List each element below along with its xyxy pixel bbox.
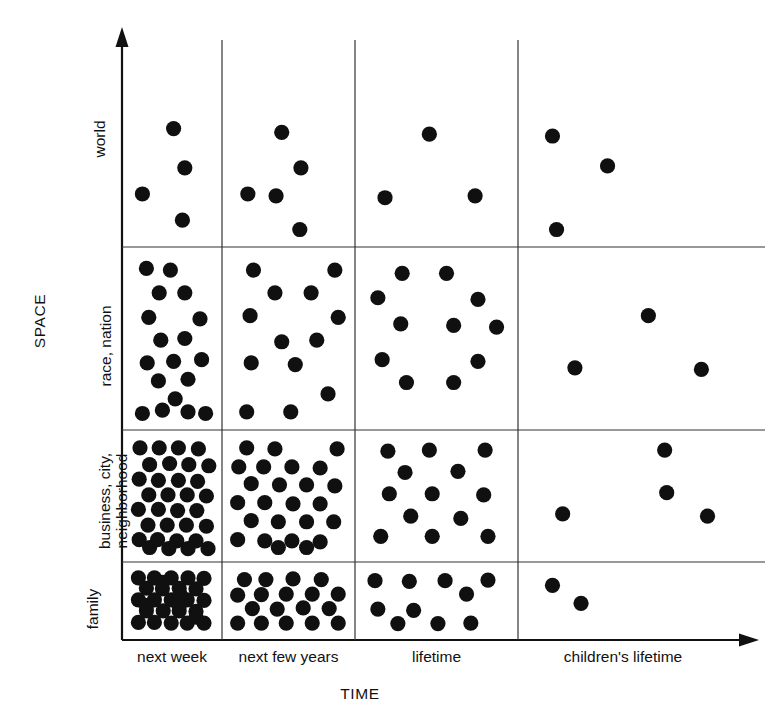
data-point-dot (200, 541, 215, 556)
data-point-dot (142, 457, 157, 472)
data-point-dot (254, 615, 269, 630)
data-point-dot (470, 354, 485, 369)
data-point-dot (190, 474, 205, 489)
data-point-dot (406, 603, 421, 618)
y-category-world: world (91, 89, 109, 189)
data-point-dot (177, 160, 192, 175)
data-point-dot (327, 478, 342, 493)
data-point-dot (377, 190, 392, 205)
data-point-dot (292, 222, 307, 237)
data-point-dot (322, 601, 337, 616)
data-point-dot (314, 572, 329, 587)
data-point-dot (177, 285, 192, 300)
data-point-dot (399, 375, 414, 390)
data-point-dot (151, 502, 166, 517)
data-point-dot (230, 588, 245, 603)
data-point-dot (555, 506, 570, 521)
data-point-dot (170, 503, 185, 518)
data-point-dot (244, 513, 259, 528)
data-point-dot (309, 333, 324, 348)
data-point-dot (166, 354, 181, 369)
data-point-dot (299, 514, 314, 529)
data-point-dot (131, 502, 146, 517)
data-point-dot (459, 586, 474, 601)
data-point-dot (147, 615, 162, 630)
data-point-dot (171, 440, 186, 455)
data-point-dot (422, 127, 437, 142)
data-point-dot (242, 308, 257, 323)
data-point-dot (192, 311, 207, 326)
data-point-dot (439, 266, 454, 281)
data-point-dot (141, 487, 156, 502)
data-point-dot (267, 441, 282, 456)
data-point-dot (430, 616, 445, 631)
data-point-dot (142, 540, 157, 555)
data-point-dot (468, 188, 483, 203)
data-point-dot (694, 362, 709, 377)
grid-group (122, 40, 765, 640)
data-point-dot (304, 285, 319, 300)
y-category-race-nation: race, nation (97, 286, 115, 406)
data-point-dot (320, 386, 335, 401)
data-point-dot (231, 459, 246, 474)
data-point-dot (132, 472, 147, 487)
data-point-dot (244, 476, 259, 491)
data-point-dot (199, 488, 214, 503)
data-point-dot (230, 615, 245, 630)
data-point-dot (268, 188, 283, 203)
data-point-dot (254, 587, 269, 602)
data-point-dot (230, 495, 245, 510)
data-point-dot (135, 186, 150, 201)
data-point-dot (257, 533, 272, 548)
data-point-dot (131, 615, 146, 630)
data-point-dot (258, 572, 273, 587)
data-point-dot (567, 360, 582, 375)
data-point-dot (164, 615, 179, 630)
data-point-dot (573, 596, 588, 611)
data-point-dot (194, 352, 209, 367)
data-point-dot (450, 464, 465, 479)
data-point-dot (181, 457, 196, 472)
data-point-dot (163, 262, 178, 277)
data-point-dot (425, 486, 440, 501)
data-point-dot (179, 518, 194, 533)
data-point-dot (161, 541, 176, 556)
data-point-dot (313, 534, 328, 549)
data-point-dot (313, 496, 328, 511)
dot-density-matrix-svg (0, 0, 781, 725)
data-point-dot (331, 586, 346, 601)
data-point-dot (284, 459, 299, 474)
data-point-dot (271, 540, 286, 555)
data-point-dot (267, 285, 282, 300)
data-point-dot (155, 575, 170, 590)
data-point-dot (659, 485, 674, 500)
data-point-dot (191, 441, 206, 456)
data-point-dot (299, 540, 314, 555)
data-point-dot (139, 261, 154, 276)
data-point-dot (425, 529, 440, 544)
x-axis-title: TIME (300, 685, 420, 703)
data-point-dot (175, 213, 190, 228)
data-point-dot (422, 442, 437, 457)
data-point-dot (152, 285, 167, 300)
data-point-dot (463, 615, 478, 630)
data-point-dot (327, 262, 342, 277)
data-point-dot (201, 458, 216, 473)
data-point-dot (437, 573, 452, 588)
data-point-dot (271, 514, 286, 529)
data-point-dot (397, 465, 412, 480)
data-point-dot (272, 477, 287, 492)
data-point-dot (657, 442, 672, 457)
data-point-dot (305, 586, 320, 601)
data-point-dot (367, 573, 382, 588)
data-point-dot (288, 357, 303, 372)
data-point-dot (545, 578, 560, 593)
data-point-dot (168, 391, 183, 406)
y-axis-title: SPACE (31, 281, 49, 361)
data-point-dot (478, 442, 493, 457)
data-point-dot (489, 319, 504, 334)
data-point-dot (382, 486, 397, 501)
data-point-dot (480, 529, 495, 544)
data-point-dot (331, 310, 346, 325)
data-point-dot (279, 615, 294, 630)
